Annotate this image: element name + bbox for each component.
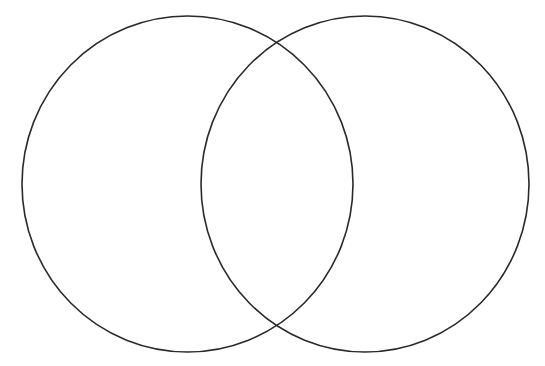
venn-diagram (0, 0, 545, 366)
left-circle (22, 16, 353, 352)
venn-canvas (0, 0, 545, 366)
right-circle (201, 16, 529, 352)
